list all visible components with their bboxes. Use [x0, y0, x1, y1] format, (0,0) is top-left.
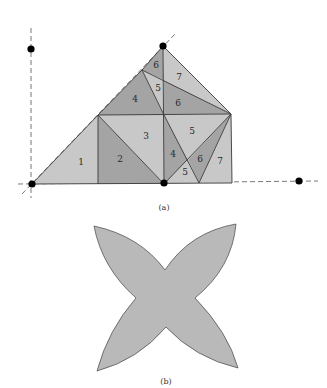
point-right	[295, 177, 302, 184]
piece-label: 4	[132, 94, 138, 104]
piece-label: 7	[176, 72, 182, 82]
figure-a: 1 2 3 4 5 6 7 4 5 6 5 6 7 (a)	[18, 28, 318, 212]
piece-label: 5	[189, 126, 195, 136]
four-pointed-star	[94, 224, 238, 371]
piece-label: 4	[170, 149, 176, 159]
piece-label: 2	[117, 154, 123, 164]
piece-label: 6	[197, 154, 203, 164]
piece-label: 3	[143, 131, 149, 141]
piece-label: 5	[182, 167, 188, 177]
point-apex	[159, 42, 166, 49]
piece-label: 5	[155, 83, 161, 93]
piece-label: 6	[175, 98, 181, 108]
point-bottom-center	[160, 179, 167, 186]
piece-label: 1	[78, 157, 84, 167]
figure-canvas: 1 2 3 4 5 6 7 4 5 6 5 6 7 (a) (b)	[0, 0, 327, 388]
caption-a: (a)	[158, 203, 169, 212]
piece-label: 6	[153, 60, 159, 70]
piece-label: 7	[217, 156, 223, 166]
caption-b: (b)	[160, 377, 171, 386]
figure-b: (b)	[94, 224, 238, 386]
point-origin	[28, 180, 35, 187]
point-top-left	[27, 45, 34, 52]
